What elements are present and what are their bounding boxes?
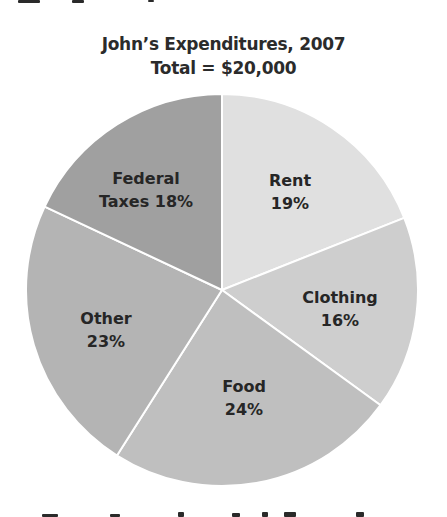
- pie-chart: Rent19%Clothing16%Food24%Other23%Federal…: [0, 0, 447, 517]
